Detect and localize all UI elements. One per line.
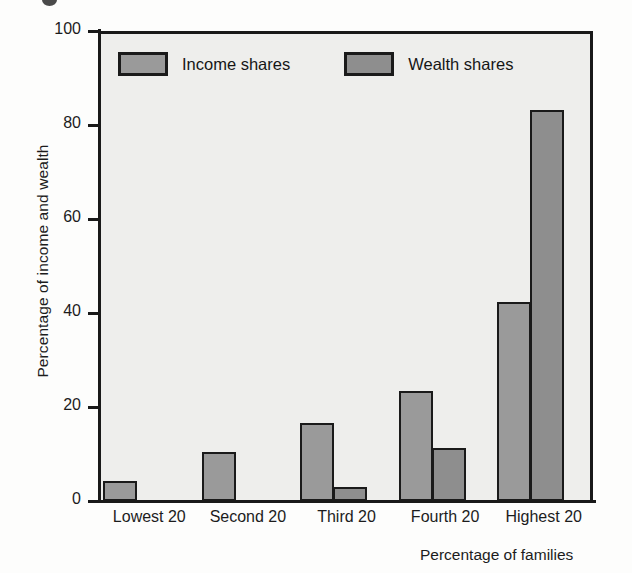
legend-swatch-income <box>118 52 168 76</box>
cropped-figure-mark <box>42 0 57 6</box>
bar-income-third-20 <box>300 423 334 501</box>
chart-legend: Income shares Wealth shares <box>118 52 513 76</box>
y-axis-tick-label: 0 <box>72 490 81 508</box>
bar-wealth-highest-20 <box>530 110 564 501</box>
y-axis-tick-label: 20 <box>63 396 81 414</box>
bar-income-highest-20 <box>497 302 531 501</box>
legend-label-wealth: Wealth shares <box>408 55 513 74</box>
bar-income-lowest-20 <box>103 481 137 501</box>
x-axis-title: Percentage of families <box>420 546 573 564</box>
legend-swatch-wealth <box>344 52 394 76</box>
x-axis-label-fourth-20: Fourth 20 <box>411 508 479 526</box>
x-axis-label-third-20: Third 20 <box>317 508 376 526</box>
legend-label-income: Income shares <box>182 55 290 74</box>
y-axis-tick-label: 80 <box>63 114 81 132</box>
bar-wealth-fourth-20 <box>432 448 466 501</box>
x-axis-label-highest-20: Highest 20 <box>505 508 582 526</box>
bar-income-fourth-20 <box>399 391 433 501</box>
legend-entry-income: Income shares <box>118 52 290 76</box>
y-axis-tick-label: 100 <box>54 20 81 38</box>
bars-layer <box>100 31 593 501</box>
x-axis-label-second-20: Second 20 <box>210 508 287 526</box>
bar-income-second-20 <box>202 452 236 501</box>
x-axis-label-lowest-20: Lowest 20 <box>113 508 186 526</box>
legend-entry-wealth: Wealth shares <box>344 52 513 76</box>
y-axis-tick-label: 60 <box>63 208 81 226</box>
y-axis-tick-label: 40 <box>63 302 81 320</box>
bar-wealth-third-20 <box>333 487 367 501</box>
y-axis-title: Percentage of income and wealth <box>34 101 52 421</box>
